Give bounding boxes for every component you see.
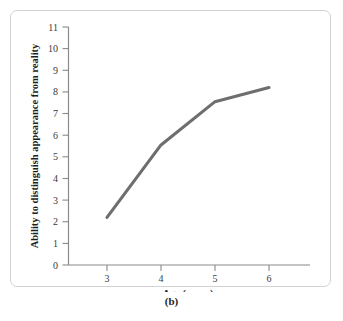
y-tick-label: 2 <box>53 216 58 227</box>
y-tick-label: 5 <box>53 151 58 162</box>
y-tick-label: 4 <box>53 173 58 184</box>
x-axis-ticks <box>107 265 269 271</box>
figure-caption: (b) <box>0 295 343 307</box>
y-tick-label: 6 <box>53 130 58 141</box>
y-axis-title: Ability to distinguish appearance from r… <box>29 43 40 248</box>
y-tick-label: 0 <box>53 260 58 271</box>
x-tick-label: 5 <box>213 273 218 284</box>
y-tick-label: 1 <box>53 238 58 249</box>
y-tick-label: 7 <box>53 108 58 119</box>
y-axis-ticks <box>63 27 69 265</box>
y-tick-label: 8 <box>53 86 58 97</box>
x-tick-label: 6 <box>267 273 272 284</box>
data-series-line <box>107 88 269 218</box>
y-tick-label: 3 <box>53 195 58 206</box>
line-chart: 11 10 9 8 7 6 5 4 3 2 1 0 3 4 5 6 Age (y… <box>0 0 343 292</box>
y-tick-label: 11 <box>48 22 58 33</box>
y-tick-label: 10 <box>48 43 58 54</box>
x-tick-label: 4 <box>159 273 164 284</box>
x-axis-title: Age (years) <box>162 288 214 292</box>
y-tick-label: 9 <box>53 65 58 76</box>
x-tick-label: 3 <box>105 273 110 284</box>
